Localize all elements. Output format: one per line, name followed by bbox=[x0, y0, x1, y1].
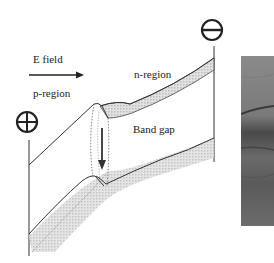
p-region-label: p-region bbox=[33, 88, 70, 99]
conduction-band-n-region bbox=[100, 58, 214, 118]
negative-terminal-icon bbox=[202, 20, 222, 40]
n-region-label: n-region bbox=[134, 69, 171, 80]
micrograph-photo bbox=[241, 56, 274, 226]
conduction-band-p-region bbox=[29, 103, 108, 165]
positive-terminal-icon bbox=[17, 112, 37, 132]
down-arrow-icon bbox=[98, 128, 106, 170]
valence-band-shading bbox=[29, 138, 214, 252]
e-field-label: E field bbox=[33, 54, 63, 65]
band-gap-label: Band gap bbox=[133, 124, 175, 135]
depletion-boundary-left bbox=[91, 104, 94, 178]
e-field-arrow-icon bbox=[29, 72, 84, 79]
